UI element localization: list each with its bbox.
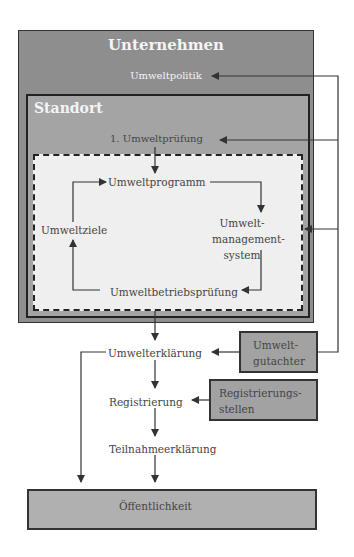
connector-arrows — [0, 0, 354, 557]
